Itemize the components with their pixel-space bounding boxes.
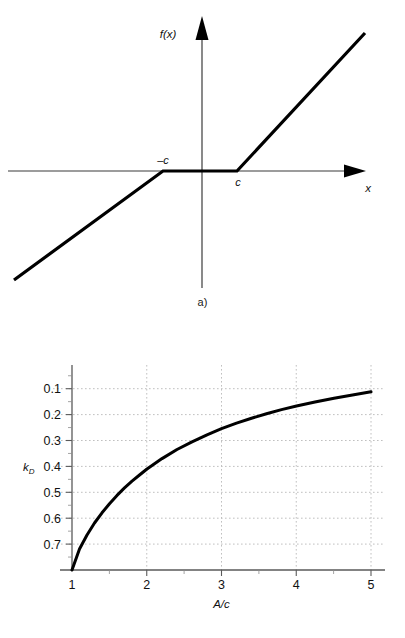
x-axis-ticks (109, 570, 371, 576)
y-axis-label-subscript: D (29, 467, 35, 476)
x-tick-label-3: 4 (293, 578, 300, 592)
x-axis-label: x (364, 182, 372, 194)
y-tick-label-5: 0.2 (44, 408, 61, 422)
x-axis-arrow-icon (344, 165, 366, 178)
deadzone-nonlinearity-chart: f(x) x –c c (0, 0, 405, 296)
x-tick-labels: 1 2 3 4 5 (69, 578, 375, 592)
y-tick-label-1: 0.6 (44, 512, 61, 526)
x-tick-label-0: 1 (69, 578, 76, 592)
y-tick-labels: 0.7 0.6 0.5 0.4 0.3 0.2 0.1 (44, 382, 61, 551)
x-axis-label: A/c (212, 598, 230, 610)
y-axis-label: kD (23, 461, 35, 476)
describing-function-gain-chart: 0.7 0.6 0.5 0.4 0.3 0.2 0.1 1 2 3 4 5 kD… (0, 318, 405, 618)
x-tick-label-1: 2 (143, 578, 150, 592)
y-tick-label-6: 0.1 (44, 382, 61, 396)
horizontal-gridlines (53, 389, 385, 544)
figure-a-panel: f(x) x –c c a) (0, 0, 405, 318)
y-tick-label-0: 0.7 (44, 538, 61, 552)
y-tick-label-4: 0.3 (44, 434, 61, 448)
breakpoint-negative-c-label: –c (156, 154, 169, 166)
y-axis-ticks (66, 376, 72, 557)
x-tick-label-4: 5 (368, 578, 375, 592)
y-axis-label: f(x) (160, 28, 177, 40)
vertical-gridlines (147, 365, 371, 570)
caption-figure-a: a) (0, 296, 405, 308)
y-axis-arrow-icon (196, 16, 209, 40)
y-tick-label-3: 0.4 (44, 460, 61, 474)
figure-b-panel: 0.7 0.6 0.5 0.4 0.3 0.2 0.1 1 2 3 4 5 kD… (0, 318, 405, 638)
breakpoint-positive-c-label: c (235, 176, 241, 188)
x-tick-label-2: 3 (218, 578, 225, 592)
y-tick-label-2: 0.5 (44, 486, 61, 500)
deadzone-function-curve (14, 33, 365, 280)
